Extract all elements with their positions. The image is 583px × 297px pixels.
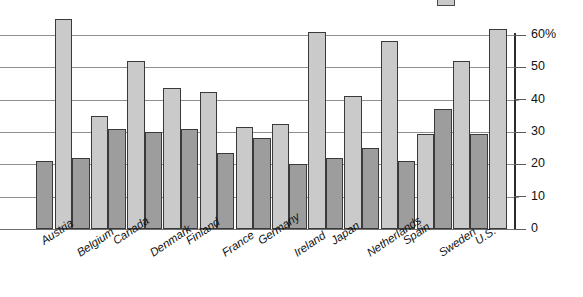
y-tick-mark [514, 229, 526, 230]
x-axis-category-labels: AustriaBelgiumCanadaDenmarkFinlandFrance… [0, 232, 583, 297]
y-tick-mark [514, 132, 526, 133]
bar [72, 158, 89, 229]
bar [381, 41, 398, 229]
bar [326, 158, 343, 229]
bar [200, 92, 217, 229]
y-tick-mark [514, 164, 526, 165]
bar [163, 88, 180, 229]
gridline [0, 67, 519, 68]
y-tick-mark [514, 196, 526, 197]
bar [36, 161, 53, 229]
bar [217, 153, 234, 229]
bar [453, 61, 470, 229]
bar [362, 148, 379, 229]
plot-area [0, 0, 519, 232]
bar-chart: 0102030405060% AustriaBelgiumCanadaDenma… [0, 0, 583, 297]
category-label: Ireland [291, 228, 328, 259]
y-tick-label: 10 [531, 189, 545, 203]
y-tick-label: 40 [531, 92, 545, 106]
y-tick-label: 50 [531, 59, 545, 73]
bar [434, 109, 451, 229]
y-tick-label: 30 [531, 124, 545, 138]
y-tick-mark [514, 99, 526, 100]
x-axis-baseline [0, 229, 519, 230]
bar [253, 138, 270, 229]
y-tick-mark [514, 67, 526, 68]
bar [108, 129, 125, 229]
bar [181, 129, 198, 229]
y-tick-label: 60% [531, 27, 556, 41]
bar [417, 134, 434, 229]
gridline [0, 35, 519, 36]
bar [145, 132, 162, 229]
bar [308, 32, 325, 229]
bar [55, 19, 72, 229]
bar [91, 116, 108, 229]
bar [344, 96, 361, 229]
bar [489, 29, 506, 229]
bar [470, 134, 487, 229]
bar [236, 127, 253, 229]
y-tick-label: 20 [531, 156, 545, 170]
category-label: France [219, 228, 256, 259]
y-tick-mark [514, 35, 526, 36]
gridline [0, 100, 519, 101]
bar [127, 61, 144, 229]
